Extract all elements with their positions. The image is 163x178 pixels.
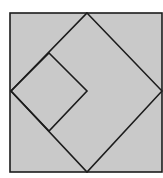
geometry-diagram xyxy=(0,0,163,178)
